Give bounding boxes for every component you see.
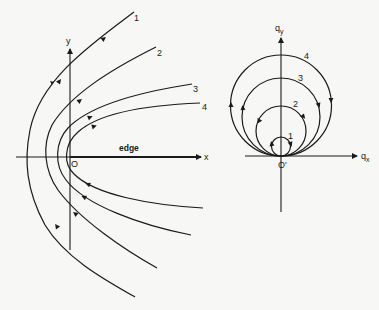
curve-label-4: 4 [202, 102, 207, 112]
origin-prime-label: O′ [278, 160, 287, 170]
arrow-icon [229, 102, 234, 107]
trajectory-curve-4 [67, 103, 203, 208]
circle-label-1: 1 [288, 131, 293, 141]
circle-label-3: 3 [298, 73, 303, 83]
qy-axis-label: qy [275, 23, 284, 36]
arrow-icon [255, 116, 262, 123]
arrow-icon [53, 222, 60, 229]
trajectory-curve-1 [27, 12, 135, 297]
curve-label-1: 1 [134, 13, 139, 23]
diagram-canvas: y x O edge 1 2 3 4 qy qx O′ 4 3 2 1 [0, 0, 379, 310]
direction-arrows [50, 35, 107, 229]
left-panel [16, 12, 203, 297]
y-axis-label: y [66, 36, 71, 46]
circle-label-4: 4 [304, 51, 309, 61]
circle-label-2: 2 [293, 99, 298, 109]
qy-subscript: y [280, 28, 284, 36]
x-axis-label: x [204, 152, 209, 162]
curve-label-3: 3 [193, 84, 198, 94]
arrow-icon [76, 97, 83, 104]
arrow-icon [87, 114, 94, 121]
edge-label: edge [119, 143, 139, 153]
qx-axis-label: qx [361, 151, 370, 163]
arrow-icon [91, 123, 97, 129]
arrow-icon [240, 105, 245, 110]
arrow-icon [329, 98, 334, 103]
origin-label: O [71, 159, 78, 169]
arrow-icon [100, 35, 107, 42]
curve-label-2: 2 [157, 48, 162, 58]
arrow-icon [84, 181, 90, 187]
right-panel [229, 38, 358, 212]
qx-subscript: x [366, 156, 370, 163]
